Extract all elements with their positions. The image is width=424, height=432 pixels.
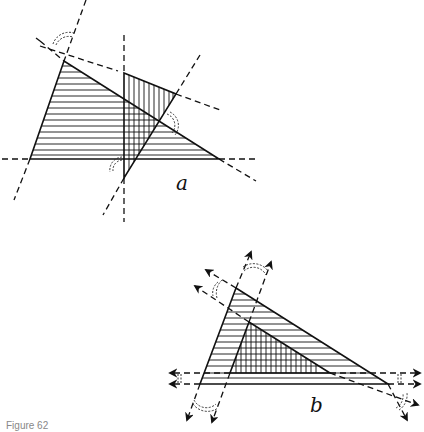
extension-lines-b	[170, 252, 420, 422]
geometry-figure: a	[0, 0, 424, 432]
panel-a: a	[0, 0, 256, 222]
horizontal-hatching-b	[190, 294, 400, 378]
triangle-vertical-hatch	[124, 73, 176, 178]
figure-caption: Figure 62	[6, 420, 48, 431]
vertical-hatching-b	[236, 310, 316, 380]
panel-b: b	[170, 252, 420, 422]
panel-label-a: a	[176, 171, 188, 195]
panel-label-b: b	[310, 393, 323, 417]
